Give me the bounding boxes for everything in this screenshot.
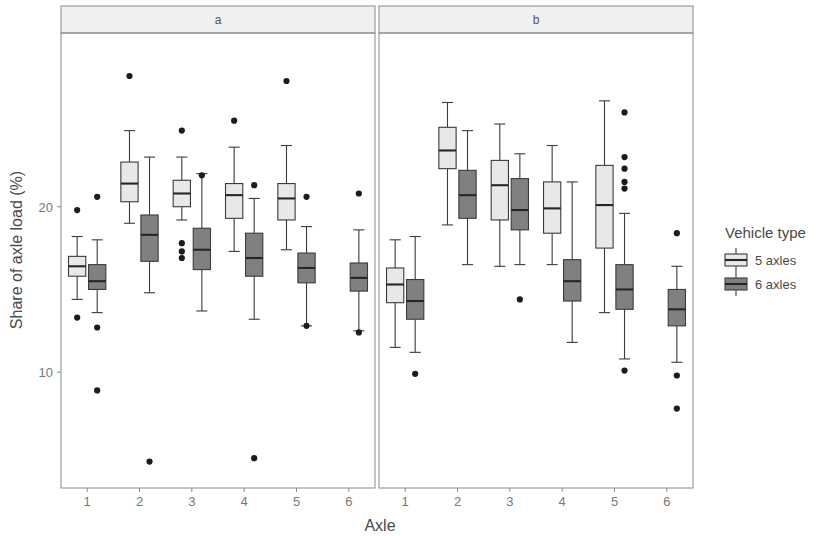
outlier-point [674, 405, 680, 411]
outlier-point [621, 179, 627, 185]
outlier-point [74, 314, 80, 320]
outlier-point [412, 371, 418, 377]
x-axis-tick-label: 6 [663, 494, 670, 509]
box-body [121, 162, 138, 202]
outlier-point [356, 190, 362, 196]
outlier-point [517, 296, 523, 302]
box-body [491, 160, 508, 220]
outlier-point [179, 240, 185, 246]
panel-background [379, 33, 693, 488]
y-axis-tick-label: 20 [39, 200, 53, 215]
outlier-point [146, 458, 152, 464]
outlier-point [621, 367, 627, 373]
outlier-point [179, 255, 185, 261]
y-axis-tick-label: 10 [39, 365, 53, 380]
outlier-point [231, 118, 237, 124]
legend-item-6-axles[interactable]: 6 axles [725, 272, 797, 296]
panel-background [61, 33, 375, 488]
outlier-point [621, 154, 627, 160]
x-axis-tick-label: 3 [188, 494, 195, 509]
outlier-point [179, 248, 185, 254]
panel-b: b123456 [379, 6, 693, 509]
outlier-point [94, 387, 100, 393]
outlier-point [674, 230, 680, 236]
legend-item-label: 6 axles [755, 277, 797, 292]
outlier-point [74, 207, 80, 213]
outlier-point [251, 182, 257, 188]
legend-title: Vehicle type [725, 224, 806, 241]
outlier-point [251, 455, 257, 461]
panel-strip-label: b [533, 13, 540, 27]
box-body [407, 280, 424, 320]
x-axis-tick-label: 1 [84, 494, 91, 509]
x-axis-tick-label: 4 [241, 494, 248, 509]
box-body [226, 184, 243, 219]
x-axis-tick-label: 1 [402, 494, 409, 509]
outlier-point [94, 324, 100, 330]
outlier-point [199, 172, 205, 178]
figure-legend: Vehicle type5 axles6 axles [725, 224, 806, 296]
figure-panels-layer: a123456b123456 [61, 6, 693, 509]
outlier-point [356, 329, 362, 335]
boxplot-figure: 1020 a123456b123456 Vehicle type5 axles6… [0, 0, 835, 536]
x-axis-tick-label: 5 [611, 494, 618, 509]
box-body [141, 215, 158, 261]
outlier-point [283, 78, 289, 84]
box-body [89, 265, 106, 290]
box-body [439, 127, 456, 168]
x-axis-tick-label: 4 [559, 494, 566, 509]
legend-item-label: 5 axles [755, 253, 797, 268]
panel-a: a123456 [61, 6, 375, 509]
x-axis-tick-label: 2 [136, 494, 143, 509]
outlier-point [303, 323, 309, 329]
x-axis-tick-label: 2 [454, 494, 461, 509]
x-axis-tick-label: 3 [506, 494, 513, 509]
x-axis-title: Axle [364, 517, 395, 534]
outlier-point [179, 128, 185, 134]
x-axis-tick-label: 5 [293, 494, 300, 509]
box-body [616, 265, 633, 310]
box-body [511, 179, 528, 230]
box-body [278, 184, 295, 220]
panel-strip-label: a [215, 13, 222, 27]
y-axis-title: Share of axle load (%) [8, 171, 25, 329]
outlier-point [126, 73, 132, 79]
outlier-point [94, 194, 100, 200]
outlier-point [621, 185, 627, 191]
outlier-point [621, 166, 627, 172]
outlier-point [303, 194, 309, 200]
legend-item-5-axles[interactable]: 5 axles [725, 248, 797, 272]
figure-static-layer: 1020 [39, 200, 61, 380]
outlier-point [674, 372, 680, 378]
outlier-point [621, 109, 627, 115]
box-body [246, 233, 263, 276]
box-body [596, 165, 613, 248]
box-body [668, 289, 685, 325]
x-axis-tick-label: 6 [345, 494, 352, 509]
